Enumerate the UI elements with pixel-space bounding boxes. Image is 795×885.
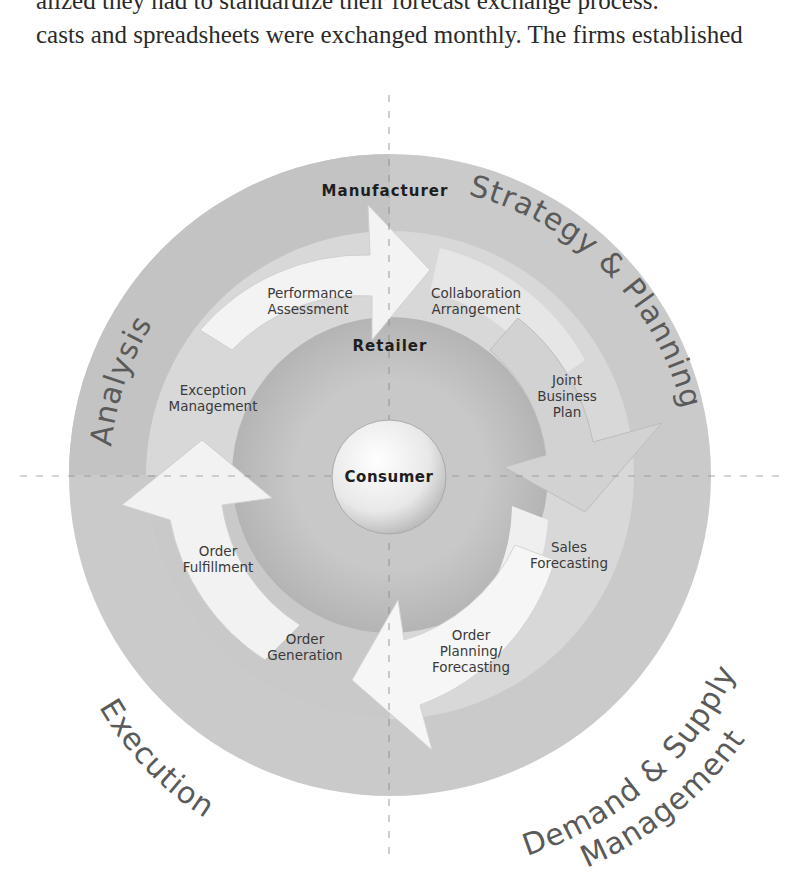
- step-order-generation-line2: Generation: [267, 647, 342, 663]
- step-joint-business-plan-line2: Business: [537, 388, 597, 404]
- step-order-generation-line1: Order: [286, 631, 325, 647]
- step-collaboration-arrangement-line2: Arrangement: [431, 301, 520, 317]
- step-order-planning-line3: Forecasting: [432, 659, 510, 675]
- step-exception-management-line2: Management: [169, 398, 258, 414]
- step-sales-forecasting-line2: Forecasting: [530, 555, 608, 571]
- consumer-label: Consumer: [345, 468, 434, 486]
- step-order-planning-line2: Planning/: [440, 643, 503, 659]
- step-joint-business-plan-line1: Joint: [551, 372, 582, 388]
- cpfr-cycle-diagram: Manufacturer Retailer Consumer Performan…: [0, 0, 795, 885]
- step-performance-assessment-line1: Performance: [267, 285, 353, 301]
- step-order-fulfillment-line2: Fulfillment: [183, 559, 254, 575]
- step-exception-management-line1: Exception: [180, 382, 246, 398]
- retailer-label: Retailer: [353, 337, 428, 355]
- step-sales-forecasting-line1: Sales: [551, 539, 587, 555]
- step-order-planning-line1: Order: [452, 627, 491, 643]
- step-joint-business-plan-line3: Plan: [553, 404, 582, 420]
- step-order-fulfillment-line1: Order: [199, 543, 238, 559]
- manufacturer-label: Manufacturer: [322, 182, 449, 200]
- step-collaboration-arrangement-line1: Collaboration: [431, 285, 521, 301]
- step-performance-assessment-line2: Assessment: [268, 301, 349, 317]
